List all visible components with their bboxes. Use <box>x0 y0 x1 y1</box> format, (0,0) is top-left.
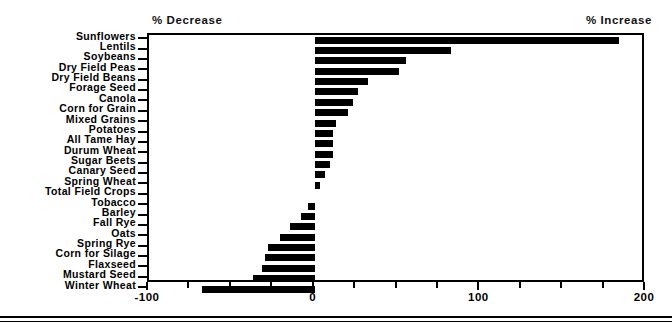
x-axis-minor-tick <box>436 282 438 288</box>
bar-row <box>149 128 642 138</box>
bar-sugar-beets <box>315 161 330 168</box>
x-axis-ticks <box>147 282 644 290</box>
bar-tobacco <box>308 203 315 210</box>
y-axis-tick <box>138 203 147 205</box>
y-axis-tick <box>138 58 147 60</box>
bar-row <box>149 180 642 190</box>
y-axis-tick <box>138 172 147 174</box>
bar-row <box>149 149 642 159</box>
bar-row <box>149 201 642 211</box>
y-axis-label: Winter Wheat <box>65 280 136 291</box>
bar-row <box>149 243 642 253</box>
footer-rule-thick <box>0 316 672 318</box>
y-axis-tick <box>138 255 147 257</box>
bar-row <box>149 77 642 87</box>
x-axis-minor-tick <box>229 282 231 288</box>
y-axis-tick <box>138 99 147 101</box>
x-axis-major-tick <box>312 282 314 290</box>
bar-rows <box>149 35 642 280</box>
bar-sunflowers <box>315 37 620 44</box>
bar-canary-seed <box>315 171 325 178</box>
y-axis-tick <box>138 131 147 133</box>
y-axis-tick <box>138 193 147 195</box>
bar-chart: % Decrease % Increase SunflowersLentilsS… <box>0 0 672 334</box>
bar-row <box>149 87 642 97</box>
bar-canola <box>315 99 353 106</box>
x-axis-major-tick <box>643 282 645 290</box>
x-axis-major-tick <box>477 282 479 290</box>
y-axis-tick <box>138 110 147 112</box>
bar-all-tame-hay <box>315 140 333 147</box>
bar-row <box>149 211 642 221</box>
bar-corn-for-grain <box>315 109 348 116</box>
y-axis-category-labels: SunflowersLentilsSoybeansDry Field PeasD… <box>0 33 147 282</box>
x-axis-minor-tick <box>187 282 189 288</box>
bar-row <box>149 263 642 273</box>
x-axis-minor-tick <box>353 282 355 288</box>
bar-forage-seed <box>315 88 358 95</box>
x-axis-minor-tick <box>395 282 397 288</box>
bar-spring-wheat <box>315 182 320 189</box>
bar-row <box>149 160 642 170</box>
bar-row <box>149 232 642 242</box>
x-axis-minor-tick <box>270 282 272 288</box>
y-axis-tick <box>138 48 147 50</box>
bar-row <box>149 66 642 76</box>
y-axis-tick <box>138 89 147 91</box>
bar-durum-wheat <box>315 151 333 158</box>
y-axis-tick <box>138 224 147 226</box>
bar-barley <box>301 213 314 220</box>
plot-area <box>147 33 644 282</box>
bar-mixed-grains <box>315 120 337 127</box>
x-axis-tick-label: 0 <box>309 291 316 303</box>
y-axis-tick <box>138 68 147 70</box>
y-axis-tick <box>138 141 147 143</box>
decrease-annotation: % Decrease <box>152 14 223 26</box>
bar-soybeans <box>315 57 406 64</box>
y-axis-tick <box>138 120 147 122</box>
y-axis-tick <box>138 214 147 216</box>
bar-spring-rye <box>268 244 314 251</box>
y-axis-tick <box>138 265 147 267</box>
x-axis-tick-label: 200 <box>634 291 655 303</box>
x-axis-tick-label: 100 <box>468 291 489 303</box>
bar-row <box>149 108 642 118</box>
bar-row <box>149 222 642 232</box>
bar-row <box>149 45 642 55</box>
y-axis-tick <box>138 162 147 164</box>
x-axis-minor-tick <box>560 282 562 288</box>
bar-row <box>149 56 642 66</box>
bar-dry-field-beans <box>315 78 368 85</box>
footer-rule-thin <box>0 321 672 322</box>
bar-potatoes <box>315 130 333 137</box>
y-axis-tick <box>138 245 147 247</box>
bar-row <box>149 118 642 128</box>
bar-row <box>149 35 642 45</box>
y-axis-tick <box>138 276 147 278</box>
bar-lentils <box>315 47 451 54</box>
bar-corn-for-silage <box>265 254 315 261</box>
bar-dry-field-peas <box>315 68 399 75</box>
bar-flaxseed <box>262 265 315 272</box>
y-axis-tick <box>138 79 147 81</box>
bar-row <box>149 170 642 180</box>
bar-row <box>149 253 642 263</box>
increase-annotation: % Increase <box>586 14 652 26</box>
bar-row <box>149 139 642 149</box>
x-axis-major-tick <box>146 282 148 290</box>
y-axis-tick <box>138 182 147 184</box>
x-axis-minor-tick <box>519 282 521 288</box>
y-axis-tick <box>138 37 147 39</box>
x-axis-labels: -1000100200 <box>0 291 672 307</box>
y-axis-tick <box>138 234 147 236</box>
bar-row <box>149 97 642 107</box>
x-axis-minor-tick <box>602 282 604 288</box>
bar-row <box>149 191 642 201</box>
bar-oats <box>280 234 315 241</box>
x-axis-tick-label: -100 <box>134 291 159 303</box>
y-axis-tick <box>138 151 147 153</box>
bar-fall-rye <box>290 223 315 230</box>
